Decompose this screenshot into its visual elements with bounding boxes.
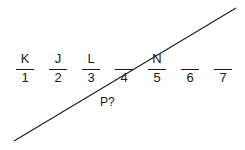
diagonal-strike-line [0,0,245,150]
